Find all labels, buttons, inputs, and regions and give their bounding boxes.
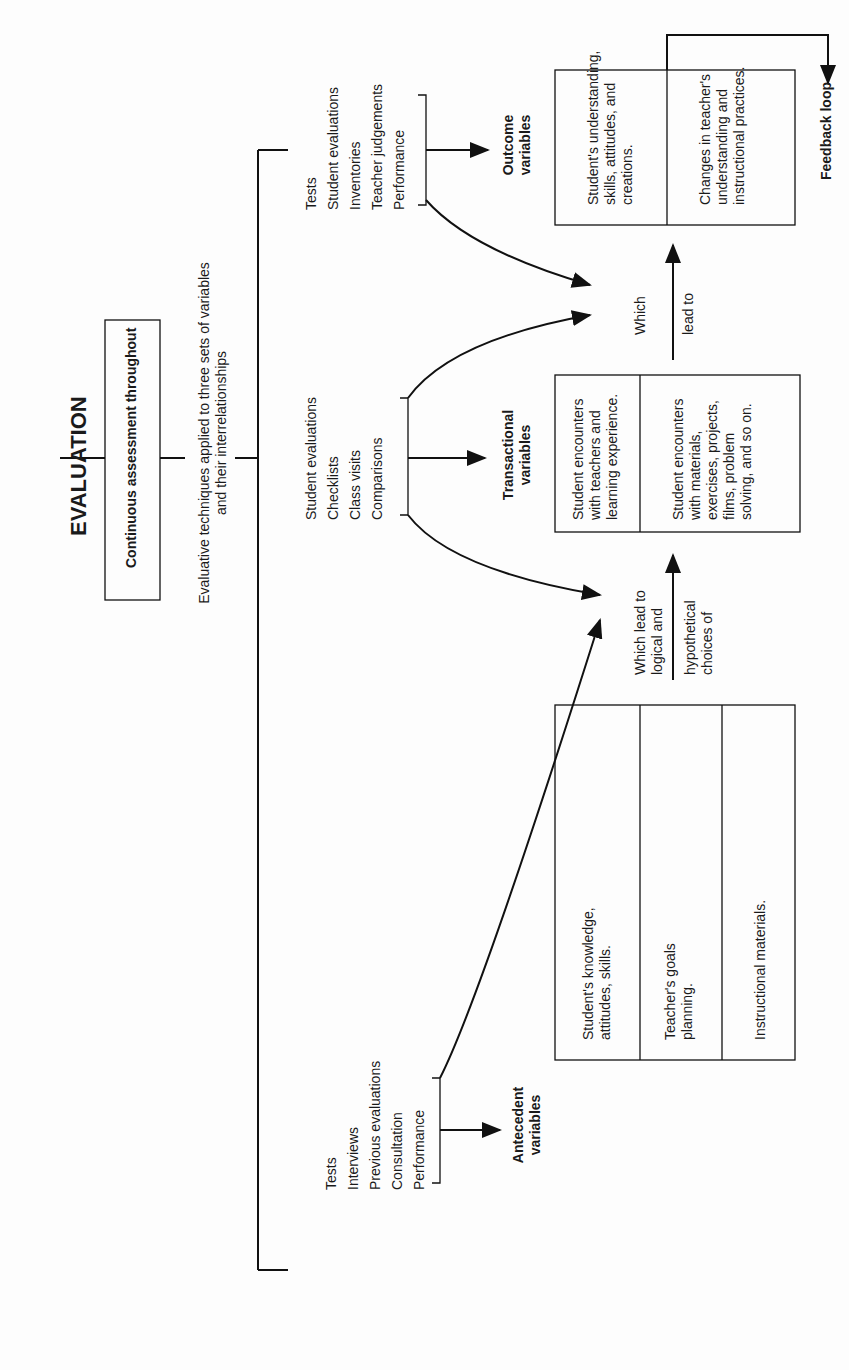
- outcome-cell-student: Student's understanding, skills, attitud…: [585, 51, 636, 205]
- which-lead-logical-label: Which lead to logical and: [632, 590, 666, 675]
- diagram-title: EVALUATION: [66, 396, 92, 536]
- outcome-techniques-list: Tests Student evaluations Inventories Te…: [300, 84, 410, 210]
- techniques-text: Evaluative techniques applied to three s…: [196, 238, 230, 628]
- which-lead-to-label: Which: [632, 296, 649, 335]
- transactional-heading: Transactional variables: [500, 395, 534, 515]
- transactional-cell-materials: Student encounters with materials, exerc…: [670, 399, 755, 520]
- antecedent-techniques-list: Tests Interviews Previous evaluations Co…: [320, 1061, 430, 1190]
- antecedent-heading: Antecedent variables: [510, 1070, 544, 1180]
- hypothetical-choices-label: hypothetical choices of: [682, 600, 716, 675]
- continuous-assessment-label: Continuous assessment throughout: [123, 328, 140, 568]
- antecedent-cell-student: Student's knowledge, attitudes, skills.: [580, 907, 614, 1040]
- antecedent-cell-teacher: Teacher's goals planning.: [662, 943, 696, 1040]
- outcome-heading: Outcome variables: [500, 95, 534, 195]
- outcome-cell-teacher: Changes in teacher's understanding and i…: [697, 66, 748, 205]
- evaluation-diagram: EVALUATION Continuous assessment through…: [0, 0, 849, 1370]
- transactional-techniques-list: Student evaluations Checklists Class vis…: [300, 397, 388, 520]
- antecedent-cell-materials: Instructional materials.: [752, 900, 769, 1040]
- which-lead-to-label-2: lead to: [680, 293, 697, 335]
- feedback-loop-label: Feedback loop: [818, 82, 835, 180]
- transactional-cell-teachers: Student encounters with teachers and lea…: [570, 394, 621, 520]
